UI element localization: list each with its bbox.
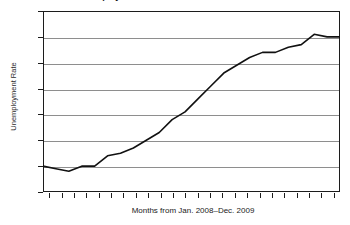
x-tick-mark-24 [334, 193, 335, 198]
y-axis-title: Unemployment Rate [9, 37, 18, 157]
x-tick-mark-1 [49, 193, 50, 198]
chart-title: Unemployment Rate from Jan. 2008–Dec. 20… [0, 0, 350, 1]
x-tick-mark-12 [185, 193, 186, 198]
x-tick-mark-17 [247, 193, 248, 198]
x-tick-mark-3 [74, 193, 75, 198]
x-tick-mark-23 [321, 193, 322, 198]
x-tick-mark-22 [309, 193, 310, 198]
series-polyline [43, 34, 340, 171]
x-tick-mark-11 [173, 193, 174, 198]
x-tick-mark-13 [198, 193, 199, 198]
x-axis-title: Months from Jan. 2008–Dec. 2009 [43, 206, 343, 215]
x-tick-mark-20 [284, 193, 285, 198]
unemployment-rate-line-chart: Unemployment Rate from Jan. 2008–Dec. 20… [0, 0, 350, 225]
x-tick-mark-10 [161, 193, 162, 198]
x-tick-mark-4 [86, 193, 87, 198]
x-tick-mark-6 [111, 193, 112, 198]
x-tick-mark-15 [222, 193, 223, 198]
x-tick-mark-7 [123, 193, 124, 198]
x-tick-mark-16 [235, 193, 236, 198]
x-tick-mark-21 [297, 193, 298, 198]
x-tick-mark-14 [210, 193, 211, 198]
x-tick-mark-9 [148, 193, 149, 198]
x-tick-mark-18 [260, 193, 261, 198]
x-tick-mark-19 [272, 193, 273, 198]
y-tick-mark-4 [38, 192, 43, 193]
x-tick-mark-8 [136, 193, 137, 198]
x-tick-mark-2 [62, 193, 63, 198]
data-series-line [43, 11, 340, 192]
x-tick-mark-5 [99, 193, 100, 198]
